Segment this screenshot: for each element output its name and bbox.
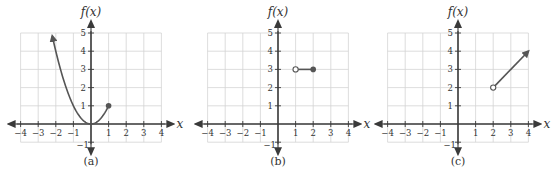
graph-panel-c: −4−3−2−11234−112345 f(x) x (c) [376, 5, 551, 168]
ticks: −4−3−2−11234−112345 [201, 28, 351, 150]
plot-series [491, 51, 529, 90]
y-tick-label: 4 [81, 46, 86, 56]
y-tick-label: 2 [268, 83, 273, 93]
x-tick-label: −3 [399, 128, 412, 138]
y-tick-label: 3 [448, 64, 453, 74]
x-tick-label: 1 [293, 128, 298, 138]
y-tick-label: 4 [268, 46, 273, 56]
x-tick-label: −4 [381, 128, 394, 138]
x-tick-label: 4 [526, 128, 531, 138]
figure-svg: −4−3−2−11234−112345 f(x) x (a) −4−3−2−11… [0, 0, 555, 176]
y-tick-label: −1 [263, 140, 276, 150]
y-tick-label: 5 [268, 28, 273, 38]
x-tick-label: 2 [310, 128, 315, 138]
x-tick-label: −2 [50, 128, 63, 138]
y-tick-label: 2 [81, 83, 86, 93]
y-tick-label: 3 [268, 64, 273, 74]
x-tick-label: −4 [201, 128, 214, 138]
y-axis-label: f(x) [447, 5, 469, 19]
x-tick-label: 4 [346, 128, 351, 138]
y-tick-label: 1 [81, 101, 86, 111]
x-tick-label: −1 [67, 128, 80, 138]
plot-series [293, 67, 316, 73]
y-tick-label: −1 [443, 140, 456, 150]
graph-panel-a: −4−3−2−11234−112345 f(x) x (a) [9, 5, 184, 168]
open-endpoint-dot [293, 67, 298, 72]
x-axis-label: x [543, 117, 550, 131]
x-tick-label: 1 [473, 128, 478, 138]
piecewise-graphs-figure: −4−3−2−11234−112345 f(x) x (a) −4−3−2−11… [0, 0, 555, 176]
closed-endpoint-dot [310, 67, 316, 73]
x-tick-label: −4 [14, 128, 27, 138]
ticks: −4−3−2−11234−112345 [381, 28, 531, 150]
x-tick-label: 4 [159, 128, 164, 138]
x-tick-label: −1 [434, 128, 447, 138]
ticks: −4−3−2−11234−112345 [14, 28, 164, 150]
x-tick-label: −2 [417, 128, 430, 138]
y-tick-label: −1 [76, 140, 89, 150]
x-tick-label: −3 [219, 128, 232, 138]
y-tick-label: 1 [268, 101, 273, 111]
open-endpoint-dot [491, 85, 496, 90]
y-tick-label: 1 [448, 101, 453, 111]
panel-caption: (a) [83, 155, 98, 168]
y-tick-label: 5 [448, 28, 453, 38]
x-tick-label: 3 [328, 128, 333, 138]
x-tick-label: −1 [254, 128, 267, 138]
y-axis-label: f(x) [80, 5, 102, 19]
y-tick-label: 4 [448, 46, 453, 56]
closed-endpoint-dot [106, 103, 112, 109]
y-tick-label: 2 [448, 83, 453, 93]
x-axis-label: x [363, 117, 370, 131]
graph-panel-b: −4−3−2−11234−112345 f(x) x (b) [196, 5, 371, 168]
x-tick-label: 2 [490, 128, 495, 138]
x-tick-label: −3 [32, 128, 45, 138]
y-axis-label: f(x) [267, 5, 289, 19]
panel-caption: (b) [270, 155, 286, 168]
y-tick-label: 5 [81, 28, 86, 38]
y-tick-label: 3 [81, 64, 86, 74]
x-tick-label: 3 [508, 128, 513, 138]
x-tick-label: 2 [123, 128, 128, 138]
x-tick-label: 1 [106, 128, 111, 138]
x-tick-label: 3 [141, 128, 146, 138]
x-tick-label: −2 [237, 128, 250, 138]
panel-caption: (c) [451, 155, 466, 168]
x-axis-label: x [176, 117, 183, 131]
